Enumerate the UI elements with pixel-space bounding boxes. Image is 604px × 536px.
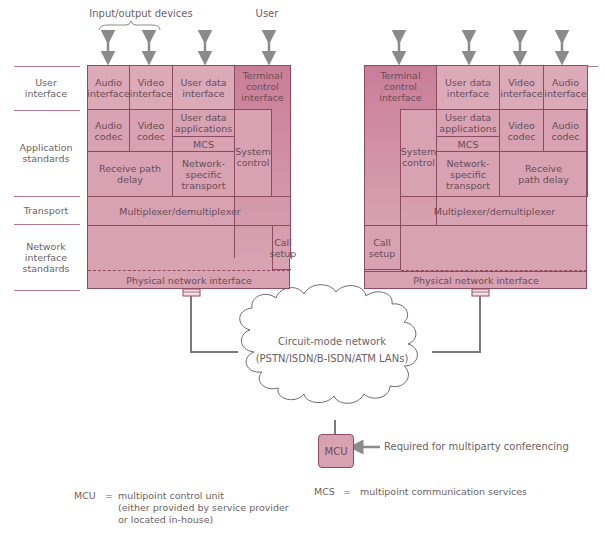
multiplexer-demultiplexer: Multiplexer/demultiplexer bbox=[400, 196, 588, 226]
audio-interface: Audio interface bbox=[543, 65, 588, 110]
system-control-label: System control bbox=[401, 146, 436, 168]
video-codec: Video codec bbox=[129, 109, 173, 152]
legend-mcu-abbr: MCU bbox=[74, 490, 102, 502]
left-arrows bbox=[108, 37, 269, 58]
physical-network-interface: Physical network interface bbox=[88, 271, 290, 289]
receive-path-delay: Receive path delay bbox=[499, 151, 588, 197]
audio-codec: Audio codec bbox=[543, 109, 588, 152]
multiplexer-demultiplexer: Multiplexer/demultiplexer bbox=[87, 196, 291, 226]
user-data-applications: User data applications bbox=[436, 109, 500, 137]
receive-path-delay: Receive path delay bbox=[87, 151, 173, 197]
left-link-line bbox=[191, 296, 238, 352]
mcu-label: MCU bbox=[325, 446, 348, 457]
video-codec: Video codec bbox=[499, 109, 544, 152]
brace-icon bbox=[99, 21, 160, 30]
user-data-interface: User data interface bbox=[436, 65, 500, 110]
call-setup: Call setup bbox=[272, 225, 291, 270]
mcs: MCS bbox=[436, 136, 500, 152]
network-title: Circuit-mode network bbox=[262, 336, 402, 347]
left-terminal-stack: Audio interface Video interface User dat… bbox=[87, 65, 290, 289]
legend-mcu-def-3: or located in-house) bbox=[118, 514, 289, 526]
mcu-note: Required for multiparty conferencing bbox=[384, 441, 569, 453]
row-label-user-interface: User interface bbox=[14, 66, 78, 110]
legend-mcs-def: multipoint communication services bbox=[360, 486, 527, 497]
right-terminal-stack: Terminal control interface User data int… bbox=[364, 65, 587, 289]
legend-mcs-abbr: MCS bbox=[314, 486, 340, 498]
terminal-control-label: Terminal control interface bbox=[376, 70, 426, 103]
system-control-label: System control bbox=[235, 146, 271, 168]
physical-network-interface: Physical network interface bbox=[365, 271, 587, 289]
row-divider bbox=[588, 66, 598, 67]
network-types: (PSTN/ISDN/B-ISDN/ATM LANs) bbox=[252, 353, 412, 364]
row-label-application-standards: Application standards bbox=[14, 110, 78, 196]
row-label-transport: Transport bbox=[14, 196, 78, 224]
row-divider bbox=[14, 290, 80, 291]
row-label-network-interface-standards: Network interface standards bbox=[14, 224, 78, 290]
network-specific-transport: Network-specific transport bbox=[436, 151, 500, 197]
call-setup: Call setup bbox=[364, 225, 401, 270]
legend-mcu-def: multipoint control unit (either provided… bbox=[118, 490, 289, 526]
mcs: MCS bbox=[172, 136, 235, 152]
right-plug-icon bbox=[472, 289, 489, 296]
video-interface: Video interface bbox=[499, 65, 544, 110]
right-link-line bbox=[432, 296, 480, 352]
audio-codec: Audio codec bbox=[87, 109, 130, 152]
video-interface: Video interface bbox=[129, 65, 173, 110]
system-control: System control bbox=[234, 109, 272, 197]
legend-mcs-eq: = bbox=[343, 486, 357, 498]
system-control: System control bbox=[400, 109, 437, 197]
audio-interface: Audio interface bbox=[87, 65, 130, 110]
terminal-control-label: Terminal control interface bbox=[240, 70, 286, 103]
network-specific-transport: Network-specific transport bbox=[172, 151, 235, 197]
legend-mcu-def-1: multipoint control unit bbox=[118, 490, 289, 502]
right-arrows bbox=[399, 37, 562, 58]
mcu-box: MCU bbox=[318, 434, 354, 468]
user-data-interface: User data interface bbox=[172, 65, 235, 110]
legend-mcu-def-2: (either provided by service provider bbox=[118, 502, 289, 514]
legend-mcu: MCU = bbox=[74, 490, 121, 502]
user-data-applications: User data applications bbox=[172, 109, 235, 137]
left-plug-icon bbox=[183, 289, 200, 296]
legend-mcs: MCS = multipoint communication services bbox=[314, 486, 527, 498]
